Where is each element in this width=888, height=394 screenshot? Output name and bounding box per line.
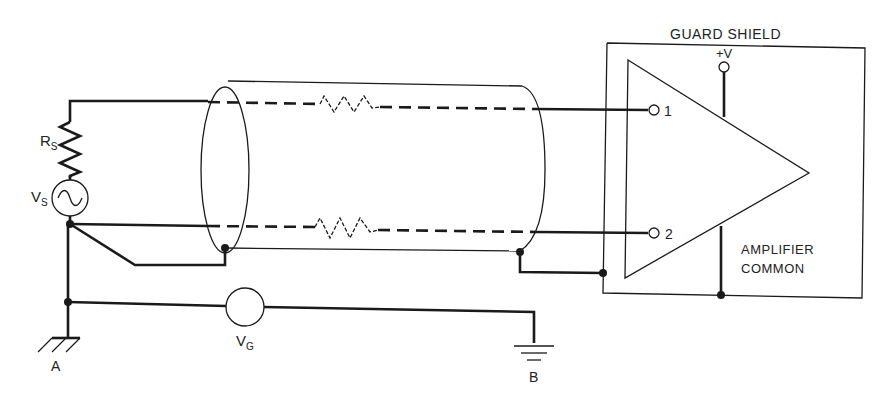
shield-drain-right — [520, 252, 603, 273]
resistor-rs — [60, 122, 80, 178]
guard-shield-box — [603, 43, 865, 298]
circuit-diagram: A VG B RS VS GUARD SHIELD — [0, 0, 888, 394]
plus-v-label: +V — [716, 46, 733, 61]
ground-loop — [68, 288, 534, 343]
bottom-conductor-left — [70, 224, 208, 226]
guard-shield-label: GUARD SHIELD — [670, 26, 781, 42]
input-2-label: 2 — [665, 226, 673, 242]
cable-end-ellipse — [201, 87, 249, 253]
ground-b-icon — [514, 346, 554, 360]
input-2-terminal — [649, 228, 659, 238]
shielded-cable — [201, 81, 545, 256]
voltage-source-vg — [226, 288, 264, 326]
amplifier-common-label-1: AMPLIFIER — [741, 242, 814, 257]
bottom-conductor-right — [537, 232, 648, 233]
amplifier-common-label-2: COMMON — [741, 261, 805, 276]
plus-v-terminal — [719, 62, 729, 72]
ground-a-label: A — [51, 358, 61, 374]
top-conductor-right — [535, 109, 648, 110]
rs-label: RS — [40, 132, 58, 152]
input-1-terminal — [649, 105, 659, 115]
top-conductor-left — [70, 101, 208, 122]
vg-label: VG — [236, 332, 254, 352]
input-1-label: 1 — [664, 103, 672, 119]
ground-a-icon — [38, 338, 80, 352]
ground-b-label: B — [529, 369, 538, 385]
ac-source-vs — [52, 180, 88, 216]
vs-label: VS — [31, 188, 48, 208]
shield-drain-left — [70, 224, 225, 265]
